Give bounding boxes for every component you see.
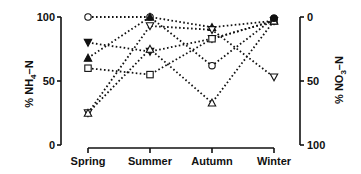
marker-open-circle-icon [209, 62, 215, 68]
left-tick-50: 50 [43, 75, 55, 87]
marker-open-square-icon [85, 65, 91, 71]
series-line-open-circle [88, 17, 274, 66]
x-tick-summer: Summer [128, 155, 173, 167]
marker-open-circle-icon [85, 14, 91, 20]
series-layer [84, 13, 277, 116]
right-tick-50: 50 [307, 75, 319, 87]
marker-open-square-icon [147, 71, 153, 77]
x-tick-winter: Winter [257, 155, 292, 167]
right-axis-title: % NO3–N [333, 56, 348, 104]
left-y-axis: 100 50 0 % NH4–N [23, 11, 61, 151]
right-tick-100: 100 [307, 139, 325, 151]
x-tick-autumn: Autumn [191, 155, 233, 167]
left-tick-0: 0 [49, 139, 55, 151]
series-line-filled-down-triangle [88, 21, 274, 52]
marker-filled-circle-icon [271, 15, 277, 21]
x-axis: Spring Summer Autumn Winter [71, 148, 292, 167]
marker-filled-down-triangle-icon [84, 39, 91, 46]
marker-filled-up-triangle-icon [84, 54, 91, 61]
series-line-open-up-triangle [88, 21, 274, 113]
chart: 100 50 0 % NH4–N 0 50 100 % NO3–N Spring… [0, 0, 361, 174]
left-axis-title: % NH4–N [23, 60, 38, 107]
marker-open-square-icon [209, 36, 215, 42]
marker-open-down-triangle-icon [270, 74, 277, 81]
x-tick-spring: Spring [71, 155, 106, 167]
left-tick-100: 100 [37, 11, 55, 23]
right-y-axis: 0 50 100 % NO3–N [300, 11, 348, 151]
series-line-filled-up-triangle [88, 17, 274, 58]
right-tick-0: 0 [307, 11, 313, 23]
marker-open-up-triangle-icon [208, 99, 215, 106]
series-line-open-square [88, 21, 274, 75]
